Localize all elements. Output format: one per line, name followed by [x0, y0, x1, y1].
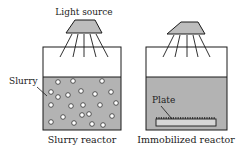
immobilized-plate	[156, 119, 216, 126]
slurry-reactor-caption: Slurry reactor	[48, 134, 117, 145]
immobilized-reactor-caption: Immobilized reactor	[137, 134, 235, 145]
lamp-icon	[66, 20, 102, 33]
lamp-icon	[167, 22, 205, 34]
light-rays	[60, 34, 108, 57]
light-rays	[163, 35, 210, 57]
slurry-reactor: Slurry Slurry reactor	[9, 20, 121, 145]
photoreactor-diagram: Light source Slurry	[0, 0, 242, 154]
immobilized-reactor: Plate Immobilized reactor	[137, 22, 235, 145]
light-source-label: Light source	[55, 7, 112, 17]
slurry-label: Slurry	[9, 76, 38, 86]
plate-label: Plate	[152, 95, 175, 105]
